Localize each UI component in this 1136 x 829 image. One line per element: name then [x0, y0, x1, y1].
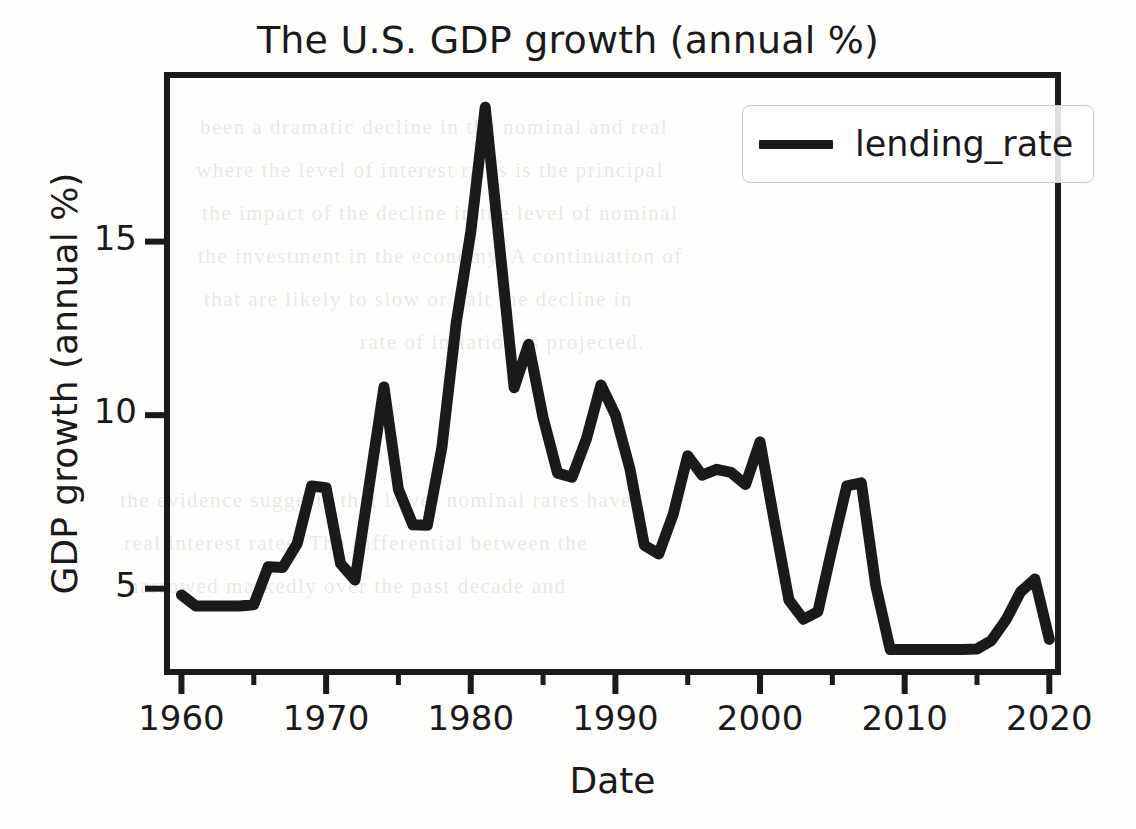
x-tick-label: 1960	[101, 698, 261, 738]
legend-label: lending_rate	[855, 124, 1073, 164]
y-tick-label: 15	[94, 218, 137, 258]
legend-line-swatch	[759, 140, 833, 149]
series-line-lending_rate	[181, 107, 1049, 649]
x-tick-label: 2010	[825, 698, 985, 738]
legend[interactable]: lending_rate	[742, 105, 1094, 183]
y-tick-label: 5	[115, 565, 137, 605]
x-tick-label: 2020	[969, 698, 1129, 738]
x-tick-label: 1970	[246, 698, 406, 738]
x-tick-label: 1990	[535, 698, 695, 738]
figure: been a dramatic decline in the nominal a…	[0, 0, 1136, 829]
y-tick-label: 10	[94, 391, 137, 431]
x-tick-label: 2000	[680, 698, 840, 738]
x-tick-label: 1980	[391, 698, 551, 738]
